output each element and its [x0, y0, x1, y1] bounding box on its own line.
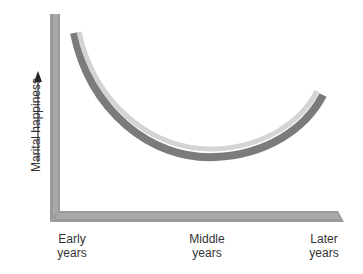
curve-light: [79, 32, 317, 149]
x-tick-later: Later years: [302, 232, 346, 260]
x-tick-middle: Middle years: [184, 232, 230, 260]
y-axis-label: Marital happiness: [29, 65, 43, 185]
x-tick-early: Early years: [52, 232, 92, 260]
curve-dark: [74, 33, 323, 157]
